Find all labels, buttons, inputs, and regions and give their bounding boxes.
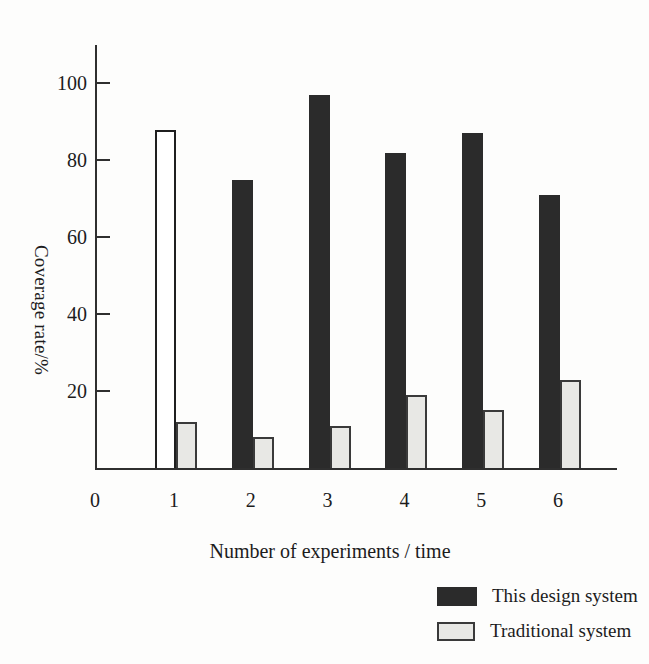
plot-area: 20406080100 bbox=[95, 45, 617, 470]
x-tick-label-3: 3 bbox=[323, 488, 333, 512]
legend-item-this-design-system: This design system bbox=[437, 586, 638, 606]
bar-chart-figure: Coverage rate/% 20406080100 0123456 Numb… bbox=[0, 0, 649, 664]
y-axis-tick bbox=[97, 390, 110, 392]
bar-this-design-system-6 bbox=[539, 195, 560, 468]
legend-swatch-traditional-system-icon bbox=[437, 622, 475, 641]
legend-item-traditional-system: Traditional system bbox=[437, 621, 638, 641]
bar-traditional-system-1 bbox=[176, 422, 197, 468]
legend: This design system Traditional system bbox=[437, 586, 638, 656]
y-axis-tick bbox=[97, 159, 110, 161]
bar-this-design-system-1 bbox=[155, 130, 176, 468]
legend-label-this-design-system: This design system bbox=[492, 585, 638, 607]
bar-traditional-system-2 bbox=[253, 437, 274, 468]
x-axis-title: Number of experiments / time bbox=[209, 540, 450, 563]
y-axis-tick bbox=[97, 82, 110, 84]
x-tick-label-2: 2 bbox=[246, 488, 256, 512]
x-tick-label-4: 4 bbox=[399, 488, 409, 512]
legend-swatch-this-design-system-icon bbox=[437, 587, 477, 606]
x-tick-label-1: 1 bbox=[169, 488, 179, 512]
bar-traditional-system-6 bbox=[560, 380, 581, 468]
legend-label-traditional-system: Traditional system bbox=[490, 620, 631, 642]
y-tick-label-80: 80 bbox=[41, 150, 87, 170]
x-axis-tick-labels: 0123456 bbox=[95, 488, 617, 512]
y-tick-label-60: 60 bbox=[41, 227, 87, 247]
y-tick-label-20: 20 bbox=[41, 381, 87, 401]
y-tick-label-100: 100 bbox=[41, 73, 87, 93]
x-tick-label-5: 5 bbox=[476, 488, 486, 512]
y-axis-tick bbox=[97, 313, 110, 315]
y-axis-tick bbox=[97, 236, 110, 238]
bar-this-design-system-2 bbox=[232, 180, 253, 468]
bar-this-design-system-5 bbox=[462, 133, 483, 468]
bar-this-design-system-3 bbox=[309, 95, 330, 468]
bar-traditional-system-5 bbox=[483, 410, 504, 468]
y-tick-label-40: 40 bbox=[41, 304, 87, 324]
x-tick-label-6: 6 bbox=[553, 488, 563, 512]
bar-traditional-system-4 bbox=[406, 395, 427, 468]
bar-this-design-system-4 bbox=[385, 153, 406, 468]
bar-traditional-system-3 bbox=[330, 426, 351, 468]
x-tick-label-0: 0 bbox=[90, 488, 100, 512]
